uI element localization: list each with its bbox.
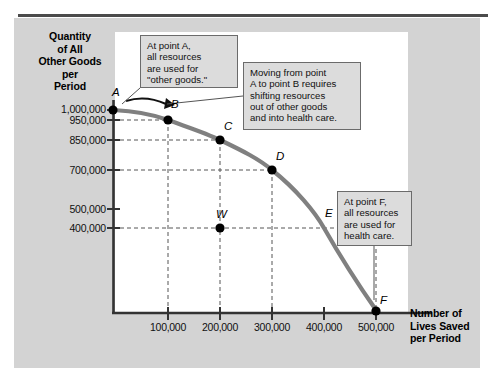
point-label-F: F [380,294,387,306]
y-axis-title-line-3: Other Goods [28,55,112,68]
callout-point-a-line-2: all resources [147,51,232,62]
callout-point-f-line-3: are used for [344,219,406,230]
xtick-label-500000: 500,000 [346,321,406,333]
callout-point-a-line-4: "other goods." [147,74,232,85]
x-axis-title: Number of Lives Saved per Period [410,307,484,345]
x-axis-title-line-3: per Period [410,332,484,345]
point-label-D: D [276,150,284,162]
point-label-W: W [216,208,227,220]
callout-point-f-line-2: all resources [344,207,406,218]
callout-a-to-b-line-4: out of other goods [250,101,355,112]
y-axis-title-line-2: of All [28,43,112,56]
callout-point-f: At point F, all resources are used for h… [337,191,412,246]
point-label-A: A [112,86,120,98]
point-C[interactable] [215,135,224,144]
y-axis-title-line-4: per [28,68,112,81]
callout-a-to-b-line-5: and into health care. [250,112,355,123]
ytick-label-400000: 400,000 [33,222,106,234]
xtick-label-400000: 400,000 [294,321,354,333]
xtick-label-200000: 200,000 [190,321,250,333]
point-W[interactable] [215,223,224,232]
callout-a-to-b-line-1: Moving from point [250,67,355,78]
point-label-C: C [224,120,232,132]
callout-point-a-line-3: are used for [147,63,232,74]
y-axis-title-line-5: Period [28,80,112,93]
arrow-a-to-b-shaft [126,98,166,104]
callout-point-f-line-1: At point F, [344,196,406,207]
y-axis-title: Quantity of All Other Goods per Period [28,30,112,93]
point-B[interactable] [163,115,172,124]
point-F[interactable] [371,306,380,315]
callout-point-a: At point A, all resources are used for "… [140,35,238,88]
point-label-B: B [171,98,179,110]
ytick-label-700000: 700,000 [33,164,106,176]
x-axis-title-line-1: Number of [410,307,484,320]
callout-a-to-b: Moving from point A to point B requires … [243,62,361,130]
ytick-label-500000: 500,000 [33,203,106,215]
x-axis-title-line-2: Lives Saved [410,320,484,333]
callout-point-f-line-4: health care. [344,230,406,241]
y-axis-title-line-1: Quantity [28,30,112,43]
leader-callout-a [122,88,140,104]
xtick-label-300000: 300,000 [242,321,302,333]
xtick-label-100000: 100,000 [138,321,198,333]
point-A[interactable] [108,105,117,114]
callout-a-to-b-line-2: A to point B requires [250,78,355,89]
point-D[interactable] [267,165,276,174]
ytick-label-850000: 850,000 [33,134,106,146]
callout-point-a-line-1: At point A, [147,40,232,51]
ppf-figure: Quantity of All Other Goods per Period N… [0,0,496,383]
callout-a-to-b-line-3: shifting resources [250,90,355,101]
point-label-E: E [325,207,333,219]
ytick-label-950000: 950,000 [33,114,106,126]
